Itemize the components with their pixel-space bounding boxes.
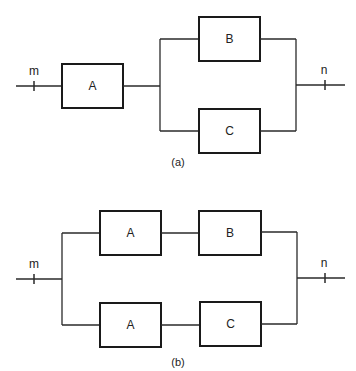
reliability-block-diagrams: m A B C n (a) m A B A [0,0,356,371]
block-c-bottom-label: C [226,317,235,331]
block-a-label: A [88,79,96,93]
node-m-label-b: m [29,257,39,271]
caption-a: (a) [171,156,184,168]
node-m-label-a: m [29,64,39,78]
node-n-label-a: n [321,63,328,77]
diagram-a: m A B C n (a) [16,17,345,168]
block-a-bottom-label: A [126,318,134,332]
diagram-b: m A B A C n (b) [16,211,345,368]
block-a-top-label: A [126,226,134,240]
node-n-label-b: n [321,256,328,270]
block-b-top-label: B [226,226,234,240]
block-b-label: B [225,32,233,46]
block-c-label: C [225,124,234,138]
caption-b: (b) [171,356,184,368]
